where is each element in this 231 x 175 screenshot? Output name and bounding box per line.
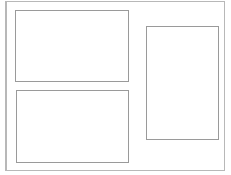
- panel-top-left: [15, 10, 129, 82]
- panel-bottom-left: [16, 90, 129, 163]
- panel-right: [146, 26, 219, 140]
